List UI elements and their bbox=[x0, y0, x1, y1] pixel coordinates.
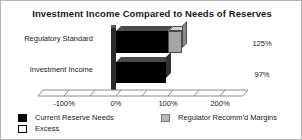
bar-segment-current-reserve-needs bbox=[116, 31, 168, 53]
chart-figure: Investment Income Compared to Needs of R… bbox=[0, 0, 302, 140]
bar-segment-current-reserve-needs-2 bbox=[116, 62, 166, 83]
x-axis-svg bbox=[1, 85, 302, 99]
legend-label-current-reserve-needs: Current Reserve Needs bbox=[35, 113, 114, 122]
legend-label-excess: Excess bbox=[35, 124, 59, 133]
category-label-line1: Regulatory Standard bbox=[24, 34, 93, 43]
category-label-line2: Investment Income bbox=[30, 65, 93, 74]
bar-investment-income bbox=[116, 62, 236, 83]
x-tick-label-3: 200% bbox=[200, 99, 240, 108]
plot-area: Regulatory Standard Investment Income 12… bbox=[1, 25, 302, 97]
bar-cap-side-face bbox=[182, 21, 187, 48]
legend-label-regulator-margins: Regulator Recomm'd Margins bbox=[178, 113, 277, 122]
bar-side-face-2 bbox=[166, 52, 171, 78]
legend-swatch-gray-icon bbox=[161, 114, 170, 122]
category-label-investment-income: Investment Income bbox=[15, 66, 93, 75]
x-tick-label-0: -100% bbox=[44, 99, 84, 108]
legend-swatch-white-icon bbox=[18, 125, 27, 133]
x-tick-label-1: 0% bbox=[96, 99, 136, 108]
legend-swatch-black-icon bbox=[18, 114, 27, 122]
x-axis-tick-labels: -100% 0% 100% 200% bbox=[1, 99, 302, 111]
value-label-regulatory-standard: 125% bbox=[239, 39, 285, 48]
bar-regulatory-standard bbox=[116, 31, 241, 53]
category-label-regulatory-standard: Regulatory Standard bbox=[15, 35, 93, 44]
chart-title: Investment Income Compared to Needs of R… bbox=[1, 8, 302, 19]
value-label-investment-income: 97% bbox=[239, 70, 285, 79]
x-tick-label-2: 100% bbox=[148, 99, 188, 108]
x-axis bbox=[1, 85, 302, 99]
bar-segment-regulator-margins bbox=[168, 31, 182, 53]
chart-legend: Current Reserve Needs Excess Regulator R… bbox=[1, 113, 302, 139]
